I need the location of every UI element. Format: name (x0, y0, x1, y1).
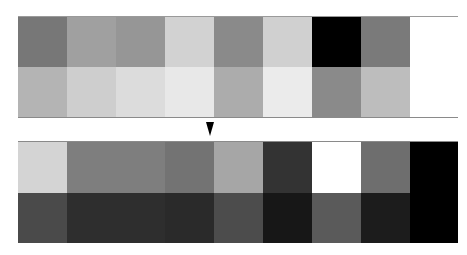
gray-patch (116, 193, 165, 243)
patch-grid-figure (18, 16, 458, 243)
down-arrow-icon (206, 122, 214, 136)
gray-patch (18, 67, 67, 117)
gray-patch (165, 17, 214, 68)
gray-patch (312, 67, 361, 117)
gray-patch (67, 142, 116, 193)
gray-patch (165, 193, 214, 243)
gray-patch (18, 17, 67, 68)
gray-patch (361, 193, 410, 243)
gray-patch (67, 193, 116, 243)
gray-patch (18, 142, 67, 193)
gray-patch (214, 142, 263, 193)
gray-patch (67, 67, 116, 117)
gray-patch (312, 193, 361, 243)
gray-patch (361, 142, 410, 193)
gray-patch (410, 17, 458, 68)
gray-patch (214, 67, 263, 117)
gray-patch (312, 17, 361, 68)
gray-patch (263, 142, 312, 193)
bottom-block-row-2 (18, 193, 458, 243)
gray-patch (67, 17, 116, 68)
gray-patch (410, 142, 458, 193)
gray-patch (116, 142, 165, 193)
gray-patch (18, 193, 67, 243)
gray-patch (361, 67, 410, 117)
gray-patch (263, 193, 312, 243)
top-block-row-2 (18, 67, 458, 117)
transform-separator-bar (18, 117, 458, 142)
gray-patch (263, 17, 312, 68)
gray-patch (165, 67, 214, 117)
top-block-row-1 (18, 16, 458, 68)
gray-patch (116, 17, 165, 68)
gray-patch (312, 142, 361, 193)
gray-patch (263, 67, 312, 117)
bottom-block-row-1 (18, 142, 458, 193)
gray-patch (214, 17, 263, 68)
gray-patch (361, 17, 410, 68)
gray-patch (410, 193, 458, 243)
gray-patch (410, 67, 458, 117)
gray-patch (214, 193, 263, 243)
gray-patch (165, 142, 214, 193)
gray-patch (116, 67, 165, 117)
